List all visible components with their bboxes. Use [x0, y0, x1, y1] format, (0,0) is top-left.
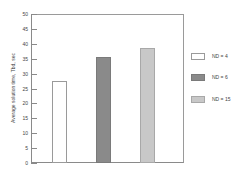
y-tick	[31, 118, 37, 119]
y-tick-label: 10	[6, 130, 28, 136]
y-tick-label: 0	[6, 160, 28, 166]
y-tick-label: 20	[6, 100, 28, 106]
bar-nd-15	[140, 48, 155, 163]
legend-label: ND = 15	[212, 96, 230, 103]
y-tick-label: 5	[6, 145, 28, 151]
y-tick	[31, 74, 37, 75]
y-tick-label: 25	[6, 86, 28, 92]
bar-nd-6	[96, 57, 111, 163]
y-tick	[31, 29, 37, 30]
y-tick-label: 45	[6, 26, 28, 32]
legend-swatch-white	[191, 53, 205, 60]
y-tick	[31, 148, 37, 149]
y-tick-label: 50	[6, 11, 28, 17]
legend-swatch-light-gray	[191, 96, 205, 103]
bar-nd-4	[52, 81, 67, 163]
y-tick-label: 30	[6, 71, 28, 77]
legend-label: ND = 6	[212, 74, 228, 81]
y-tick	[31, 89, 37, 90]
y-tick	[31, 44, 37, 45]
y-tick	[31, 59, 37, 60]
y-tick	[31, 163, 37, 164]
y-tick	[31, 133, 37, 134]
y-tick	[31, 103, 37, 104]
legend-swatch-dark-gray	[191, 74, 205, 81]
y-tick-label: 15	[6, 115, 28, 121]
bar-chart: Average solution time, Tbd, sec 05101520…	[0, 0, 241, 171]
y-tick-label: 40	[6, 41, 28, 47]
y-tick	[31, 14, 37, 15]
legend-label: ND = 4	[212, 53, 228, 60]
y-tick-label: 35	[6, 56, 28, 62]
